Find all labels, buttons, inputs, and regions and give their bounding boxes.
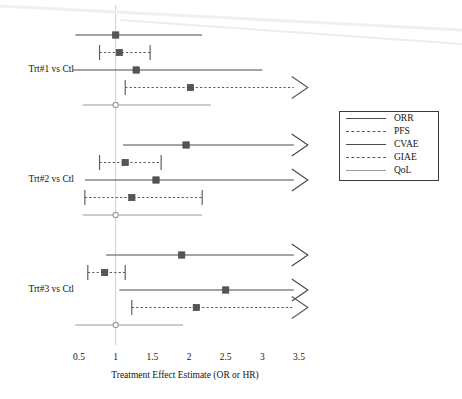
- legend-item: CVAE: [340, 138, 438, 151]
- legend-line-swatch: [346, 144, 386, 145]
- x-tick-label: 1.5: [146, 352, 158, 362]
- point-estimate-marker: [222, 287, 228, 293]
- legend-item-label: ORR: [394, 112, 414, 125]
- plot-background: [0, 0, 462, 399]
- legend-item-label: PFS: [394, 125, 410, 138]
- legend-item: PFS: [340, 125, 438, 138]
- legend-line-swatch: [346, 157, 386, 158]
- legend-line-swatch: [346, 170, 386, 171]
- group-label: Trt#2 vs Ctl: [12, 174, 74, 184]
- legend: ORRPFSCVAEGIAEQoL: [339, 111, 439, 181]
- x-tick-label: 3: [260, 352, 265, 362]
- point-estimate-marker: [133, 67, 139, 73]
- point-estimate-marker: [113, 212, 118, 217]
- legend-item-label: GIAE: [394, 151, 417, 164]
- point-estimate-marker: [153, 177, 159, 183]
- point-estimate-marker: [183, 142, 189, 148]
- x-tick-label: 2.5: [220, 352, 232, 362]
- point-estimate-marker: [129, 194, 135, 200]
- point-estimate-marker: [187, 84, 193, 90]
- point-estimate-marker: [101, 269, 107, 275]
- point-estimate-marker: [193, 304, 199, 310]
- legend-line-swatch: [346, 131, 386, 132]
- legend-item: QoL: [340, 164, 438, 177]
- x-tick-label: 1: [113, 352, 118, 362]
- point-estimate-marker: [113, 102, 118, 107]
- group-label: Trt#1 vs Ctl: [12, 64, 74, 74]
- x-axis-title: Treatment Effect Estimate (OR or HR): [111, 370, 258, 380]
- legend-item-label: QoL: [394, 164, 411, 177]
- point-estimate-marker: [116, 49, 122, 55]
- legend-line-swatch: [346, 118, 386, 119]
- legend-item: ORR: [340, 112, 438, 125]
- x-tick-label: 3.5: [293, 352, 305, 362]
- group-label: Trt#3 vs Ctl: [12, 284, 74, 294]
- point-estimate-marker: [178, 252, 184, 258]
- point-estimate-marker: [113, 322, 118, 327]
- point-estimate-marker: [122, 159, 128, 165]
- legend-item: GIAE: [340, 151, 438, 164]
- x-tick-label: 2: [187, 352, 192, 362]
- x-tick-label: 0.5: [73, 352, 85, 362]
- legend-item-label: CVAE: [394, 138, 419, 151]
- forest-plot: [0, 0, 462, 399]
- point-estimate-marker: [112, 32, 118, 38]
